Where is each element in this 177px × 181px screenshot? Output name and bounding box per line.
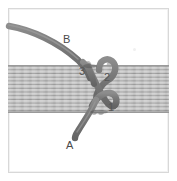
label-a-standing-end: A [66,140,73,151]
label-crossing-1: 1 [108,102,114,113]
label-crossing-3: 3 [79,66,85,77]
label-crossing-2: 2 [104,72,110,83]
knot-diagram-canvas [0,0,177,181]
paper-speck [133,48,136,51]
label-b-working-end: B [63,34,70,45]
knot-diagram-figure: B A 3 2 1 [0,0,177,181]
